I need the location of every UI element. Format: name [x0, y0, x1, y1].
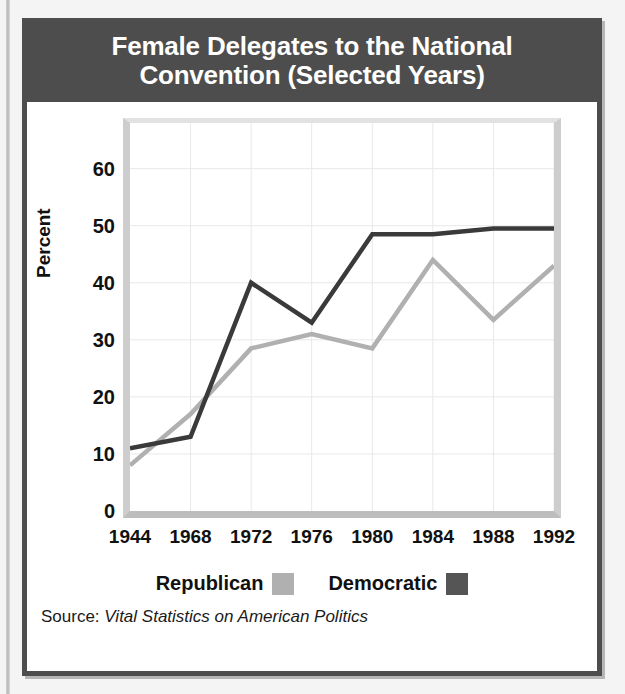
- chart-area: Percent 0102030405060 194419681972197619…: [37, 110, 587, 570]
- figure-title-bar: Female Delegates to the National Convent…: [27, 23, 597, 102]
- legend-item-republican: Republican: [156, 572, 295, 595]
- x-axis-tick-label: 1992: [533, 526, 575, 548]
- source-title: Vital Statistics on American Politics: [104, 607, 368, 626]
- page: Female Delegates to the National Convent…: [0, 0, 625, 694]
- y-axis-title: Percent: [33, 209, 55, 279]
- plot-area: [130, 123, 554, 511]
- plot-frame: [123, 118, 561, 518]
- y-axis-ticks: 0102030405060: [59, 110, 115, 570]
- y-axis-tick-label: 60: [67, 157, 115, 180]
- x-axis-tick-label: 1972: [230, 526, 272, 548]
- x-axis-tick-label: 1980: [351, 526, 393, 548]
- figure-container: Female Delegates to the National Convent…: [22, 18, 602, 676]
- page-edge-rule: [6, 0, 10, 694]
- y-axis-tick-label: 20: [67, 386, 115, 409]
- legend-item-democratic: Democratic: [328, 572, 468, 595]
- x-axis-tick-label: 1976: [291, 526, 333, 548]
- y-axis-tick-label: 40: [67, 271, 115, 294]
- legend-swatch: [272, 573, 294, 595]
- x-axis-tick-label: 1984: [412, 526, 454, 548]
- legend-swatch: [446, 573, 468, 595]
- legend-label: Democratic: [328, 572, 437, 595]
- chart-legend: RepublicanDemocratic: [27, 572, 597, 595]
- source-note: Source: Vital Statistics on American Pol…: [41, 607, 597, 637]
- x-axis-tick-label: 1988: [472, 526, 514, 548]
- chart-svg: [130, 123, 554, 511]
- series-line-democratic: [130, 229, 554, 449]
- y-axis-tick-label: 10: [67, 443, 115, 466]
- x-axis-tick-label: 1968: [169, 526, 211, 548]
- source-prefix: Source:: [41, 607, 100, 626]
- x-axis-ticks: 19441968197219761980198419881992: [123, 526, 561, 552]
- figure-title-line-1: Female Delegates to the National: [41, 32, 583, 61]
- figure-title-line-2: Convention (Selected Years): [41, 61, 583, 90]
- y-axis-tick-label: 50: [67, 214, 115, 237]
- x-axis-tick-label: 1944: [109, 526, 151, 548]
- y-axis-tick-label: 30: [67, 329, 115, 352]
- legend-label: Republican: [156, 572, 264, 595]
- y-axis-tick-label: 0: [67, 500, 115, 523]
